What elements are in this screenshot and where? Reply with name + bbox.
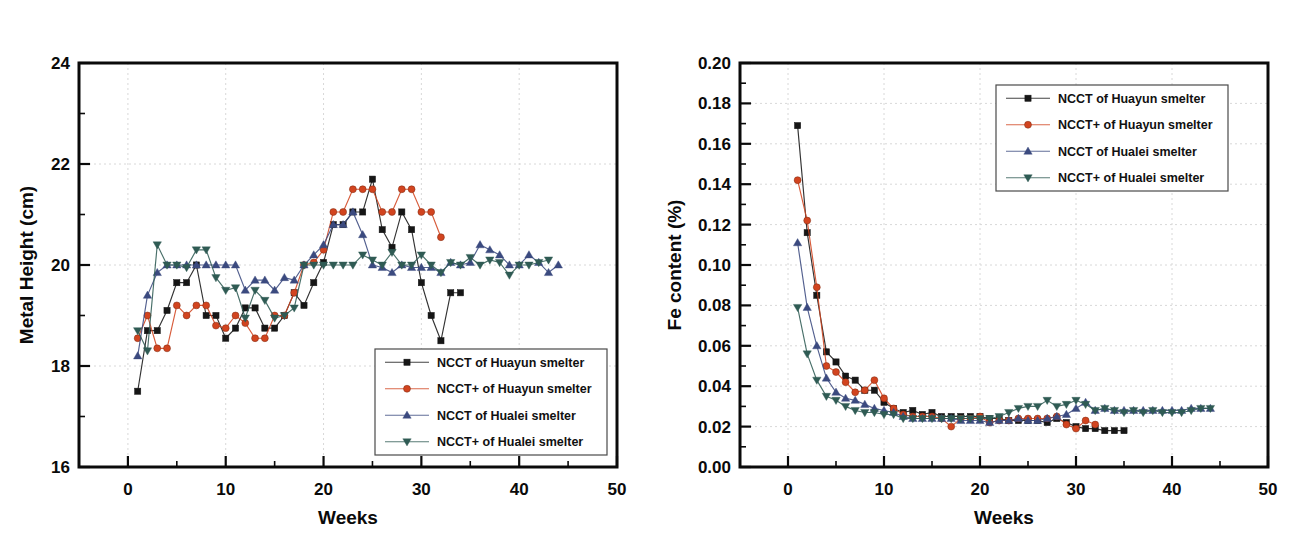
mh-datapoint <box>252 305 258 311</box>
mh-datapoint <box>399 209 405 215</box>
fe-datapoint <box>813 342 821 349</box>
legend-item-label: NCCT+ of Huayun smelter <box>437 382 592 396</box>
mh-datapoint <box>223 335 229 341</box>
mh-datapoint <box>311 280 317 286</box>
fe-datapoint <box>1072 397 1080 404</box>
mh-datapoint <box>184 280 190 286</box>
mh-datapoint <box>203 302 210 309</box>
mh-datapoint <box>476 241 484 248</box>
fe-xtick-label: 20 <box>971 480 990 499</box>
fe-datapoint <box>861 409 869 416</box>
fe-ytick-label: 0.00 <box>698 458 731 477</box>
legend-item-label: NCCT+ of Hualei smelter <box>1058 171 1204 185</box>
mh-datapoint <box>154 328 160 334</box>
figure-container: 010203040501618202224 Weeks Metal Height… <box>0 0 1302 549</box>
mh-ytick-label: 24 <box>51 54 70 73</box>
fe-datapoint <box>813 377 821 384</box>
fe-series-3 <box>793 304 1214 422</box>
fe-datapoint <box>843 373 849 379</box>
fe-ytick-label: 0.12 <box>698 216 731 235</box>
mh-datapoint <box>358 231 366 238</box>
mh-datapoint <box>173 302 180 309</box>
fe-datapoint <box>852 377 858 383</box>
fe-datapoint <box>822 393 830 400</box>
mh-datapoint <box>554 261 562 268</box>
fe-ytick-label: 0.08 <box>698 296 731 315</box>
fe-datapoint <box>813 284 820 291</box>
fe-datapoint <box>822 374 830 381</box>
mh-datapoint <box>202 261 210 268</box>
legend-item-label: NCCT of Hualei smelter <box>1058 145 1197 159</box>
mh-datapoint <box>438 338 444 344</box>
fe-series-1 <box>794 177 1099 432</box>
fe-datapoint <box>1092 421 1099 428</box>
fe-content-chart: 010203040500.000.020.040.060.080.100.120… <box>651 0 1302 549</box>
fe-ytick-label: 0.14 <box>698 175 732 194</box>
mh-datapoint <box>448 290 454 296</box>
mh-datapoint <box>310 262 318 269</box>
fe-datapoint <box>1073 425 1080 432</box>
mh-datapoint <box>222 261 230 268</box>
mh-datapoint <box>369 186 376 193</box>
mh-datapoint <box>213 312 219 318</box>
legend-marker-icon <box>404 385 411 392</box>
fe-series-2 <box>793 239 1214 426</box>
mh-datapoint <box>486 246 494 253</box>
mh-datapoint <box>202 247 210 254</box>
mh-datapoint <box>231 261 239 268</box>
legend-item-label: NCCT of Huayun smelter <box>437 356 584 370</box>
legend-marker-icon <box>404 359 410 365</box>
mh-legend: NCCT of Huayun smelterNCCT+ of Huayun sm… <box>375 349 607 455</box>
mh-datapoint <box>301 302 307 308</box>
fe-datapoint <box>1014 405 1022 412</box>
mh-datapoint <box>349 262 357 269</box>
fe-datapoint <box>1111 428 1117 434</box>
fe-datapoint <box>948 423 955 430</box>
panel-metal-height: 010203040501618202224 Weeks Metal Height… <box>0 0 651 549</box>
mh-datapoint <box>418 280 424 286</box>
mh-datapoint <box>261 276 269 283</box>
mh-datapoint <box>261 335 268 342</box>
mh-series-1 <box>134 186 444 352</box>
fe-ytick-label: 0.18 <box>698 94 731 113</box>
fe-datapoint <box>841 394 849 401</box>
fe-datapoint <box>861 387 868 394</box>
fe-ytick-label: 0.06 <box>698 337 731 356</box>
mh-datapoint <box>360 209 366 215</box>
fe-datapoint <box>880 411 888 418</box>
mh-datapoint <box>143 291 151 298</box>
mh-datapoint <box>418 209 425 216</box>
fe-ytick-label: 0.10 <box>698 256 731 275</box>
mh-series-3 <box>134 242 553 355</box>
fe-datapoint <box>814 292 820 298</box>
fe-datapoint <box>910 407 916 413</box>
mh-datapoint <box>153 242 161 249</box>
mh-datapoint <box>428 209 435 216</box>
mh-datapoint <box>212 322 219 329</box>
fe-y-axis-title: Fe content (%) <box>664 200 685 331</box>
fe-x-axis-title: Weeks <box>974 507 1034 528</box>
fe-datapoint <box>1053 403 1061 410</box>
mh-datapoint <box>232 325 238 331</box>
fe-datapoint <box>841 403 849 410</box>
fe-datapoint <box>861 400 869 407</box>
legend-marker-icon <box>1025 121 1032 128</box>
fe-ytick-label: 0.02 <box>698 418 731 437</box>
mh-datapoint <box>222 325 229 332</box>
fe-datapoint <box>793 304 801 311</box>
mh-datapoint <box>349 186 356 193</box>
mh-datapoint <box>525 251 533 258</box>
mh-datapoint <box>339 262 347 269</box>
mh-ytick-label: 16 <box>51 458 70 477</box>
fe-datapoint <box>804 217 811 224</box>
mh-datapoint <box>379 227 385 233</box>
mh-datapoint <box>262 325 268 331</box>
mh-ytick-label: 18 <box>51 357 70 376</box>
fe-datapoint <box>1102 428 1108 434</box>
fe-datapoint <box>803 351 811 358</box>
mh-datapoint <box>319 241 327 248</box>
fe-datapoint <box>871 377 878 384</box>
fe-datapoint <box>842 379 849 386</box>
mh-series-2 <box>134 208 563 359</box>
legend-item-label: NCCT of Huayun smelter <box>1058 92 1205 106</box>
